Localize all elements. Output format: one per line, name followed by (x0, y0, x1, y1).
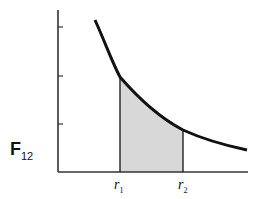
r1-label: r1 (114, 177, 123, 195)
y-axis-label: F12 (10, 139, 33, 162)
r2-label: r2 (178, 177, 187, 195)
force-distance-diagram (0, 0, 262, 199)
